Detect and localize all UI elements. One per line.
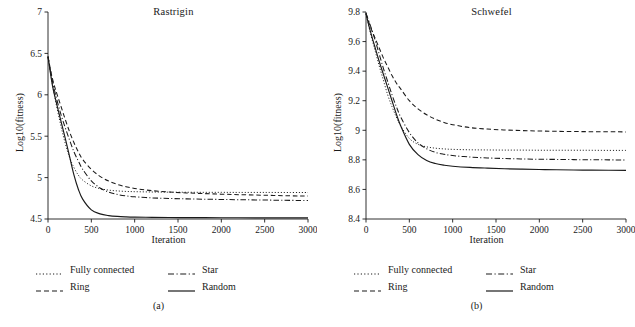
svg-text:9.4: 9.4 [348,66,360,76]
panel-a-plot: 4.555.566.57050010001500200025003000 [0,0,317,258]
panel-a-legend-col-1: Fully connected Ring [36,262,134,296]
svg-text:8.8: 8.8 [348,155,360,165]
legend-item-fully-connected: Fully connected [354,262,452,278]
svg-text:6.5: 6.5 [30,49,42,59]
panel-a-ylabel: Log10(fitness) [14,93,25,152]
legend-item-star: Star [168,262,236,278]
svg-text:9.2: 9.2 [348,96,360,106]
panel-b-subcaption: (b) [318,300,635,311]
legend-label-star: Star [202,264,218,276]
legend-item-star: Star [486,262,554,278]
legend-swatch-fully-connected [36,265,63,275]
legend-swatch-random [168,282,195,292]
svg-text:9: 9 [355,126,360,136]
legend-label-star: Star [520,264,536,276]
svg-text:6: 6 [37,90,42,100]
series-line-fully-connected [48,57,308,193]
legend-swatch-ring [36,282,63,292]
legend-label-fully-connected: Fully connected [388,264,452,276]
panel-b-ylabel: Log10(fitness) [332,93,343,152]
panel-b: Schwefel 8.48.68.899.29.49.69.8050010001… [318,0,635,327]
series-line-star [366,13,626,160]
legend-label-random: Random [520,281,554,293]
legend-swatch-star [168,265,195,275]
series-line-random [48,57,308,218]
panel-a-svg: 4.555.566.57050010001500200025003000 [0,0,317,258]
legend-item-random: Random [168,279,236,295]
panel-b-xlabel: Iteration [318,234,635,245]
panel-a-subcaption: (a) [0,300,317,311]
legend-label-ring: Ring [70,281,89,293]
svg-text:4.5: 4.5 [30,214,42,224]
legend-swatch-fully-connected [354,265,381,275]
series-line-star [48,57,308,201]
panel-a-legend: Fully connected Ring Star [0,262,317,302]
panel-b-legend-col-2: Star Random [486,262,554,296]
panel-b-legend: Fully connected Ring Star [318,262,635,302]
legend-label-random: Random [202,281,236,293]
panel-b-legend-col-1: Fully connected Ring [354,262,452,296]
svg-text:5.5: 5.5 [30,132,42,142]
legend-swatch-ring [354,282,381,292]
legend-label-fully-connected: Fully connected [70,264,134,276]
legend-item-fully-connected: Fully connected [36,262,134,278]
legend-label-ring: Ring [388,281,407,293]
panel-b-svg: 8.48.68.899.29.49.69.8050010001500200025… [318,0,635,258]
legend-item-random: Random [486,279,554,295]
legend-item-ring: Ring [354,279,452,295]
legend-swatch-random [486,282,513,292]
legend-item-ring: Ring [36,279,134,295]
panel-b-plot: 8.48.68.899.29.49.69.8050010001500200025… [318,0,635,258]
figure-container: Rastrigin 4.555.566.57050010001500200025… [0,0,635,327]
panel-a-legend-col-2: Star Random [168,262,236,296]
svg-text:8.6: 8.6 [348,185,360,195]
svg-text:8.4: 8.4 [348,214,360,224]
panel-a-xlabel: Iteration [0,234,317,245]
svg-text:7: 7 [37,7,42,17]
svg-text:9.8: 9.8 [348,7,360,17]
svg-text:9.6: 9.6 [348,37,360,47]
panel-a: Rastrigin 4.555.566.57050010001500200025… [0,0,317,327]
series-line-random [366,13,626,170]
svg-text:5: 5 [37,173,42,183]
legend-swatch-star [486,265,513,275]
series-line-ring [366,13,626,131]
